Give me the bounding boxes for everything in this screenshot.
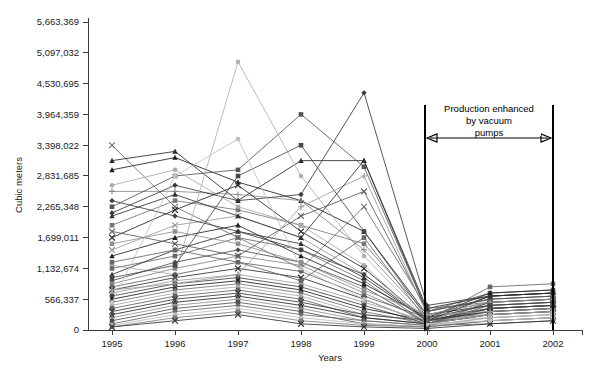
x-tick-label: 2002	[542, 338, 563, 349]
y-tick-label: 0	[74, 324, 79, 335]
data-point-marker-circle	[110, 183, 115, 188]
data-point-marker-square	[362, 235, 367, 240]
data-point-marker-square	[362, 241, 367, 246]
data-point-marker-square	[236, 260, 241, 265]
data-point-marker-square	[110, 275, 115, 280]
data-point-marker-square	[173, 198, 178, 203]
y-axis-title: Cubic meters	[13, 157, 24, 213]
y-tick-label: 3,398,022	[37, 140, 79, 151]
data-point-marker-square	[236, 168, 241, 173]
y-tick-label: 2,831,685	[37, 170, 79, 181]
data-point-marker-square	[299, 278, 304, 283]
data-point-marker-circle	[236, 137, 241, 142]
x-tick-label: 2001	[479, 338, 500, 349]
data-point-marker-square	[173, 248, 178, 253]
data-point-marker-circle	[362, 254, 367, 259]
data-point-marker-square	[110, 241, 115, 246]
data-point-marker-square	[110, 223, 115, 228]
data-point-marker-circle	[110, 300, 115, 305]
data-point-marker-square	[236, 241, 241, 246]
data-point-marker-circle	[236, 204, 241, 209]
y-tick-label: 2,265,348	[37, 201, 79, 212]
y-tick-label: 1,699,011	[37, 232, 79, 243]
chart-background	[0, 0, 596, 379]
x-tick-label: 1996	[164, 338, 185, 349]
chart-figure: 0566,3371,132,6741,699,0112,265,3482,831…	[0, 0, 596, 379]
y-tick-label: 5,663,369	[37, 16, 79, 27]
y-tick-label: 4,530,695	[37, 78, 79, 89]
data-point-marker-square	[173, 263, 178, 268]
data-point-marker-square	[236, 174, 241, 179]
data-point-marker-square	[299, 143, 304, 148]
x-axis-title: Years	[318, 352, 342, 363]
data-point-marker-square	[173, 254, 178, 259]
y-tick-label: 5,097,032	[37, 47, 79, 58]
data-point-marker-circle	[299, 266, 304, 271]
data-point-marker-circle	[173, 168, 178, 173]
y-tick-label: 3,964,359	[37, 109, 79, 120]
data-point-marker-circle	[173, 174, 178, 179]
data-point-marker-square	[362, 288, 367, 293]
x-tick-label: 1995	[101, 338, 122, 349]
data-point-marker-square	[110, 266, 115, 271]
data-point-marker-square	[110, 260, 115, 265]
data-point-marker-circle	[362, 297, 367, 302]
x-tick-label: 1999	[353, 338, 374, 349]
annotation-text-line-2: by vacuum	[466, 115, 512, 126]
data-point-marker-square	[488, 285, 493, 290]
data-point-marker-square	[110, 204, 115, 209]
data-point-marker-square	[488, 303, 493, 308]
data-point-marker-circle	[362, 263, 367, 268]
cubic-meters-line-chart: 0566,3371,132,6741,699,0112,265,3482,831…	[0, 0, 596, 379]
data-point-marker-circle	[488, 318, 493, 323]
y-tick-label: 1,132,674	[37, 263, 79, 274]
data-point-marker-square	[236, 235, 241, 240]
data-point-marker-square	[299, 260, 304, 265]
x-tick-label: 1998	[290, 338, 311, 349]
y-tick-label: 566,337	[45, 294, 79, 305]
annotation-text-line-3: pumps	[475, 127, 504, 138]
data-point-marker-circle	[236, 60, 241, 65]
data-point-marker-square	[362, 229, 367, 234]
annotation-text-line-1: Production enhanced	[444, 103, 534, 114]
x-tick-label: 2000	[416, 338, 437, 349]
data-point-marker-square	[173, 229, 178, 234]
data-point-marker-circle	[299, 223, 304, 228]
data-point-marker-square	[299, 112, 304, 117]
data-point-marker-circle	[299, 174, 304, 179]
x-tick-label: 1997	[227, 338, 248, 349]
